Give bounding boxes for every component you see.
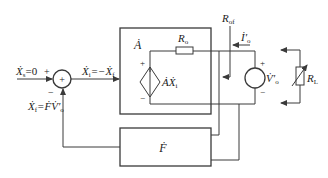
feedback-label: Ḟ <box>158 141 167 155</box>
rof-label: Rof <box>221 12 235 26</box>
load-resistor <box>296 67 304 85</box>
dep-source-plus: + <box>140 58 145 68</box>
feedback-sense-top <box>211 51 219 135</box>
output-top-wire <box>193 51 255 68</box>
input-label: Ẋs=0 <box>15 65 38 79</box>
dep-source-label: ȦẊi <box>161 76 177 90</box>
feedback-return-wire <box>63 89 120 147</box>
vo-label: V̇′o <box>266 72 279 86</box>
output-bottom-wire <box>150 88 255 104</box>
vo-minus: − <box>260 87 265 97</box>
dep-source-minus: − <box>140 93 145 103</box>
test-voltage-source <box>245 68 265 88</box>
load-top-wire <box>281 50 300 67</box>
rl-label: RL <box>306 72 318 86</box>
io-label: İ′o <box>240 31 251 45</box>
ro-resistor <box>176 47 193 54</box>
error-signal-label: Ẋi=−Ẋf <box>81 65 115 79</box>
feedback-diagram: + + − Ẋs=0 Ẋi=−Ẋf Ẋf=ḞV̇′o Ȧ Ro + − ȦẊi … <box>0 0 328 178</box>
feedback-signal-label: Ẋf=ḞV̇′o <box>27 100 64 114</box>
summer-plus-symbol: + <box>59 74 65 85</box>
vo-plus: + <box>260 58 265 68</box>
variable-arrow <box>292 65 307 86</box>
load-bottom-wire <box>281 85 300 103</box>
summer-plus-sign: + <box>44 66 50 77</box>
feedback-sense-bottom <box>211 104 239 160</box>
amplifier-label: Ȧ <box>133 38 142 52</box>
summer-minus-sign: − <box>48 87 54 98</box>
inner-top-wire <box>150 51 176 72</box>
ro-label: Ro <box>177 32 189 46</box>
